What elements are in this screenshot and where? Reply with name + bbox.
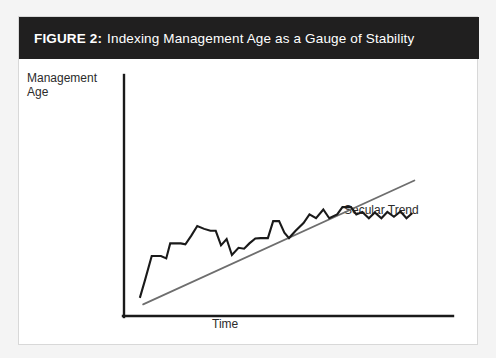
figure-card: FIGURE 2:Indexing Management Age as a Ga… [18,16,478,345]
figure-title-banner: FIGURE 2:Indexing Management Age as a Ga… [19,17,479,59]
series-group [140,180,415,304]
chart-svg [19,59,479,346]
axes-group [123,75,453,317]
figure-title-text: Indexing Management Age as a Gauge of St… [107,31,414,46]
figure-number-label: FIGURE 2: [34,31,102,46]
secular-trend-line [143,180,414,304]
figure-title: FIGURE 2:Indexing Management Age as a Ga… [34,17,414,59]
plot-area: ManagementAge Time Secular Trend [19,59,479,346]
management-age-line [140,207,413,298]
page-root: FIGURE 2:Indexing Management Age as a Ga… [0,0,496,358]
